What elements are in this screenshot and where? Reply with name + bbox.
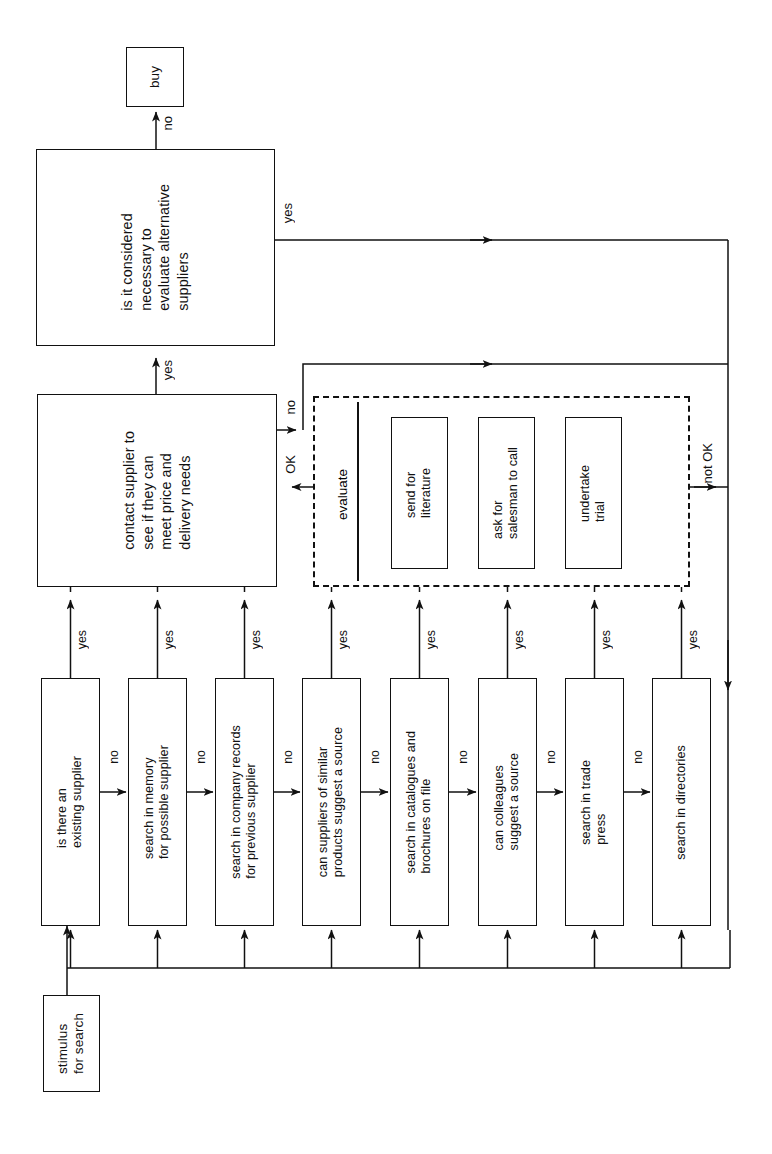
edge-label-company-records-no: no — [281, 750, 295, 764]
edge-label-trade-press-no: no — [631, 750, 645, 764]
edge-label-trade-press-yes: yes — [599, 630, 613, 649]
edge-label-existing-supplier-no: no — [107, 750, 121, 764]
edge-label-colleagues-no: no — [544, 750, 558, 764]
node-stimulus-for-search-label: stimulus for search — [55, 1013, 88, 1074]
evaluate-group-label-wrap: evaluate — [330, 440, 354, 550]
node-catalogues[interactable]: search in catalogues and brochures on fi… — [390, 678, 449, 926]
edge-label-catalogues-no: no — [456, 750, 470, 764]
edge-label-directories-yes: yes — [686, 630, 700, 649]
edge-label-contact-no: no — [283, 400, 298, 414]
node-directories-label: search in directories — [674, 745, 689, 860]
edge-label-colleagues-yes: yes — [512, 630, 526, 649]
edge-label-similar-products-no: no — [368, 750, 382, 764]
node-company-records[interactable]: search in company records for previous s… — [215, 678, 274, 926]
node-undertake-trial[interactable]: undertake trial — [565, 417, 622, 569]
node-colleagues-label: can colleagues suggest a source — [492, 753, 523, 851]
edge-label-similar-products-yes: yes — [336, 630, 350, 649]
node-trade-press-label: search in trade press — [579, 760, 610, 845]
node-directories[interactable]: search in directories — [652, 678, 711, 926]
edge-label-evaluate-not-ok: not OK — [700, 443, 715, 483]
flowchart-canvas: buy is it considered necessary to evalua… — [0, 0, 772, 1154]
node-contact-supplier-label: contact supplier to see if they can meet… — [120, 431, 195, 550]
node-company-records-label: search in company records for previous s… — [229, 725, 260, 879]
node-memory-label: search in memory for possible supplier — [142, 745, 173, 859]
edge-label-company-records-yes: yes — [249, 630, 263, 649]
node-similar-products-label: can suppliers of similar products sugges… — [316, 727, 347, 877]
node-evaluate-alternative-suppliers[interactable]: is it considered necessary to evaluate a… — [36, 149, 275, 346]
edge-label-contact-yes: yes — [160, 360, 175, 380]
node-buy-label: buy — [147, 66, 163, 88]
edge-label-evaluate-ok: OK — [283, 455, 298, 474]
edge-label-memory-no: no — [194, 750, 208, 764]
edge-label-catalogues-yes: yes — [424, 630, 438, 649]
node-send-for-literature-label: send for literature — [404, 468, 435, 518]
node-send-for-literature[interactable]: send for literature — [391, 417, 448, 569]
node-stimulus-for-search[interactable]: stimulus for search — [43, 995, 100, 1092]
edge-label-memory-yes: yes — [162, 630, 176, 649]
node-ask-salesman-to-call-label: ask for salesman to call — [491, 447, 522, 539]
node-existing-supplier[interactable]: is there an existing supplier — [41, 678, 100, 926]
edge-label-buy-no: no — [160, 116, 175, 130]
node-memory[interactable]: search in memory for possible supplier — [128, 678, 187, 926]
edge-label-alternatives-yes: yes — [280, 203, 295, 223]
node-existing-supplier-label: is there an existing supplier — [55, 756, 86, 848]
node-undertake-trial-label: undertake trial — [578, 465, 609, 522]
node-contact-supplier[interactable]: contact supplier to see if they can meet… — [37, 394, 277, 587]
node-evaluate-alternative-suppliers-label: is it considered necessary to evaluate a… — [118, 184, 193, 311]
node-buy[interactable]: buy — [126, 47, 184, 107]
evaluate-group-label: evaluate — [335, 469, 350, 520]
edge-label-existing-supplier-yes: yes — [75, 630, 89, 649]
node-ask-salesman-to-call[interactable]: ask for salesman to call — [478, 417, 535, 569]
node-similar-products[interactable]: can suppliers of similar products sugges… — [302, 678, 361, 926]
node-catalogues-label: search in catalogues and brochures on fi… — [404, 731, 435, 873]
node-colleagues[interactable]: can colleagues suggest a source — [478, 678, 537, 926]
node-trade-press[interactable]: search in trade press — [565, 678, 624, 926]
